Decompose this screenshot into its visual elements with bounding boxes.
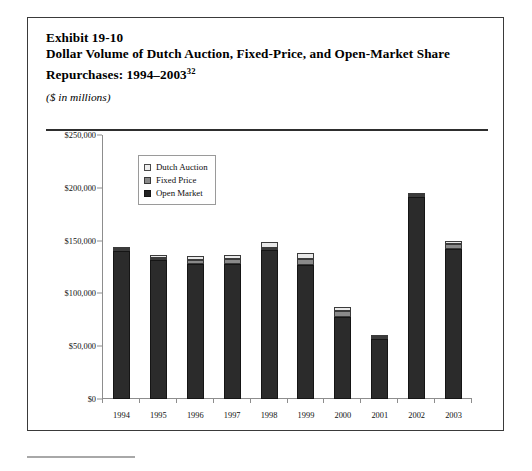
x-axis-tick-mark [139,399,140,403]
legend-item[interactable]: Open Market [144,187,208,199]
chart-plot-area: $0$50,000$100,000$150,000$200,000$250,00… [28,18,505,432]
bar-stack[interactable] [113,247,130,399]
fixed-price-swatch [144,177,151,184]
legend-item-label: Fixed Price [156,175,196,185]
bar-segment-open-market [371,339,388,399]
y-axis-tick-label: $200,000 [65,183,96,192]
x-axis-tick-label: 1994 [113,411,130,420]
x-axis-tick-label: 2003 [445,411,462,420]
bar-stack[interactable] [224,255,241,399]
x-axis-tick-label: 2001 [371,411,388,420]
bar-stack[interactable] [445,241,462,399]
y-axis-tick-label: $0 [88,395,96,404]
y-axis-tick-label: $100,000 [65,289,96,298]
x-axis-tick-label: 1998 [261,411,278,420]
bar-segment-open-market [150,260,167,399]
x-axis-tick-mark [250,399,251,403]
x-axis-tick-label: 1995 [150,411,167,420]
bar-stack[interactable] [150,255,167,399]
x-axis-tick-mark [397,399,398,403]
bar-stack[interactable] [408,193,425,399]
y-axis-tick-label: $50,000 [69,342,96,351]
bar-stack[interactable] [297,253,314,399]
bar-segment-open-market [297,265,314,399]
x-axis-tick-mark [102,399,103,403]
bar-segment-open-market [187,264,204,399]
bar-segment-open-market [445,249,462,399]
bar-segment-open-market [334,317,351,399]
y-axis-tick-label: $150,000 [65,236,96,245]
y-axis: $0$50,000$100,000$150,000$200,000$250,00… [28,135,102,399]
bar-stack[interactable] [371,335,388,399]
legend-item-label: Dutch Auction [156,162,208,172]
x-axis-tick-label: 1999 [298,411,315,420]
bar-stack[interactable] [187,256,204,399]
x-axis-tick-label: 1997 [224,411,241,420]
bar-stack[interactable] [261,242,278,399]
exhibit-box: Exhibit 19-10 Dollar Volume of Dutch Auc… [27,17,504,431]
x-axis: 1994199519961997199819992000200120022003 [102,399,472,429]
footnote-rule [27,456,135,458]
x-axis-tick-mark [287,399,288,403]
x-axis-tick-mark [360,399,361,403]
bar-segment-open-market [224,264,241,399]
bar-stack[interactable] [334,307,351,399]
legend-item[interactable]: Fixed Price [144,174,208,186]
x-axis-tick-mark [434,399,435,403]
bar-segment-open-market [261,250,278,399]
bar-segment-open-market [408,197,425,399]
x-axis-tick-mark [213,399,214,403]
legend-item[interactable]: Dutch Auction [144,161,208,173]
chart-legend: Dutch AuctionFixed PriceOpen Market [138,155,216,205]
dutch-auction-swatch [144,164,151,171]
bar-segment-open-market [113,251,130,399]
x-axis-tick-label: 2000 [334,411,351,420]
x-axis-tick-mark [471,399,472,403]
x-axis-tick-mark [176,399,177,403]
x-axis-tick-mark [323,399,324,403]
y-axis-tick-label: $250,000 [65,131,96,140]
x-axis-tick-label: 1996 [187,411,204,420]
x-axis-tick-label: 2002 [408,411,425,420]
legend-item-label: Open Market [156,188,203,198]
open-market-swatch [144,190,151,197]
